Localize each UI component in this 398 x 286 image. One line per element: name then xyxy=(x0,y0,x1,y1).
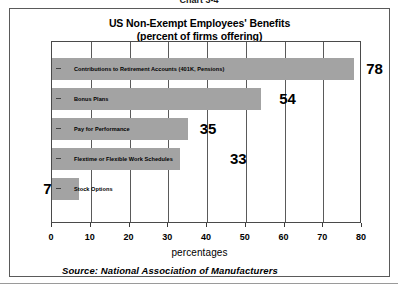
bar-value-label: 35 xyxy=(200,118,217,140)
category-tick xyxy=(56,98,61,99)
category-tick xyxy=(56,128,61,129)
plot-area: Contributions to Retirement Accounts (40… xyxy=(51,41,361,223)
bar-value-label: 33 xyxy=(230,148,247,170)
chart-title: US Non-Exempt Employees' Benefits (perce… xyxy=(10,17,389,43)
bar-category-label: Contributions to Retirement Accounts (40… xyxy=(74,58,224,80)
x-tick-label-10: 10 xyxy=(77,232,103,243)
source-note: Source: National Association of Manufact… xyxy=(62,265,278,276)
x-tick-10 xyxy=(90,223,91,227)
x-tick-label-0: 0 xyxy=(38,232,64,243)
bar-category-label: Stock Options xyxy=(74,178,113,200)
bar-value-label: 78 xyxy=(366,58,383,80)
x-tick-label-50: 50 xyxy=(232,232,258,243)
bottom-divider xyxy=(0,283,398,284)
x-axis-title: percentages xyxy=(10,247,389,258)
x-tick-label-70: 70 xyxy=(309,232,335,243)
x-tick-80 xyxy=(361,223,362,227)
x-tick-0 xyxy=(51,223,52,227)
chart-caption-text: Chart 3-4 xyxy=(0,0,398,5)
chart-frame: US Non-Exempt Employees' Benefits (perce… xyxy=(9,8,390,277)
x-tick-label-40: 40 xyxy=(193,232,219,243)
category-tick xyxy=(56,68,61,69)
bar-category-label: Flextime or Flexible Work Schedules xyxy=(74,148,173,170)
x-tick-label-80: 80 xyxy=(348,232,374,243)
bar-category-label: Pay for Performance xyxy=(74,118,130,140)
x-tick-30 xyxy=(167,223,168,227)
chart-caption: Chart 3-4 xyxy=(0,0,398,7)
bar-value-label: 54 xyxy=(279,88,296,110)
chart-figure: Chart 3-4 US Non-Exempt Employees' Benef… xyxy=(0,0,398,286)
bar-row: Stock Options7 xyxy=(52,178,362,200)
category-tick xyxy=(56,158,61,159)
chart-title-main: US Non-Exempt Employees' Benefits xyxy=(10,17,389,30)
x-tick-40 xyxy=(206,223,207,227)
x-tick-50 xyxy=(245,223,246,227)
bar-value-label: 7 xyxy=(43,178,51,200)
bar-category-label: Bonus Plans xyxy=(74,88,108,110)
category-tick xyxy=(56,188,61,189)
x-tick-label-20: 20 xyxy=(116,232,142,243)
x-tick-60 xyxy=(284,223,285,227)
bar-row: Flextime or Flexible Work Schedules33 xyxy=(52,148,362,170)
bar-row: Pay for Performance35 xyxy=(52,118,362,140)
x-tick-70 xyxy=(322,223,323,227)
x-tick-label-60: 60 xyxy=(271,232,297,243)
x-tick-20 xyxy=(129,223,130,227)
bar-row: Bonus Plans54 xyxy=(52,88,362,110)
x-tick-label-30: 30 xyxy=(154,232,180,243)
bar-row: Contributions to Retirement Accounts (40… xyxy=(52,58,362,80)
